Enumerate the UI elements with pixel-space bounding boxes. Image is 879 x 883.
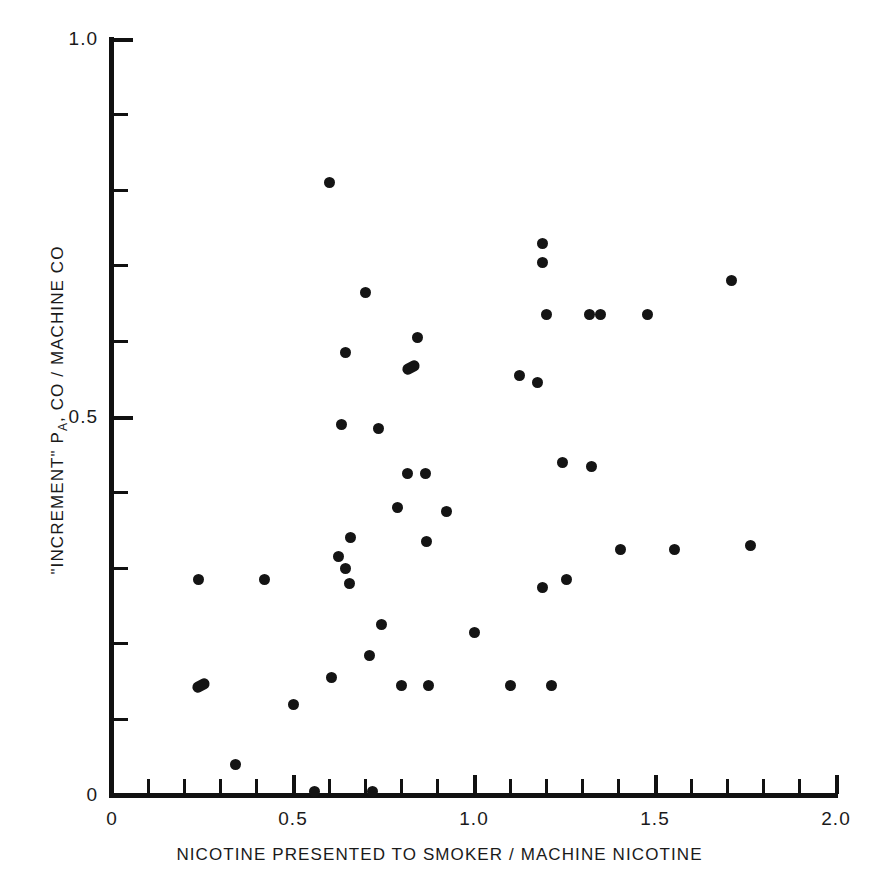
x-axis-title: NICOTINE PRESENTED TO SMOKER / MACHINE N… xyxy=(0,845,879,865)
y-axis-title-prefix: "INCREMENT" P xyxy=(48,431,67,575)
data-point xyxy=(376,619,387,630)
data-point xyxy=(557,457,568,468)
data-point xyxy=(373,423,384,434)
data-point xyxy=(309,786,320,797)
data-point xyxy=(230,759,241,770)
data-point xyxy=(595,309,606,320)
data-point xyxy=(392,502,403,513)
data-point xyxy=(615,544,626,555)
data-point xyxy=(326,672,337,683)
data-point xyxy=(586,461,597,472)
data-point xyxy=(505,680,516,691)
data-point xyxy=(412,332,423,343)
y-axis-title: "INCREMENT" PA, CO / MACHINE CO xyxy=(48,90,68,730)
data-point xyxy=(441,506,452,517)
data-point xyxy=(259,574,270,585)
data-point xyxy=(360,287,371,298)
data-point xyxy=(364,650,375,661)
data-point xyxy=(340,347,351,358)
data-point xyxy=(537,238,548,249)
data-point xyxy=(193,574,204,585)
data-point xyxy=(561,574,572,585)
data-point xyxy=(367,786,378,797)
data-point xyxy=(420,468,431,479)
data-point xyxy=(537,257,548,268)
data-point xyxy=(333,551,344,562)
data-point xyxy=(324,177,335,188)
data-point xyxy=(514,370,525,381)
data-point xyxy=(288,699,299,710)
data-point xyxy=(469,627,480,638)
data-point xyxy=(532,377,543,388)
data-point xyxy=(421,536,432,547)
data-point xyxy=(402,468,413,479)
data-point xyxy=(396,680,407,691)
y-axis-title-suffix: , CO / MACHINE CO xyxy=(48,245,67,421)
data-point xyxy=(423,680,434,691)
data-point xyxy=(344,578,355,589)
data-point xyxy=(190,676,211,694)
data-point xyxy=(669,544,680,555)
y-axis-title-subscript: A xyxy=(56,422,70,431)
data-point xyxy=(537,582,548,593)
data-point xyxy=(345,532,356,543)
data-point xyxy=(584,309,595,320)
data-point xyxy=(745,540,756,551)
data-point xyxy=(400,359,421,377)
data-point xyxy=(541,309,552,320)
data-point xyxy=(546,680,557,691)
data-points-layer xyxy=(0,0,879,883)
scatter-plot-figure: 00.51.0 00.51.01.52.0 "INCREMENT" PA, CO… xyxy=(0,0,879,883)
data-point xyxy=(642,309,653,320)
data-point xyxy=(726,275,737,286)
data-point xyxy=(336,419,347,430)
data-point xyxy=(340,563,351,574)
